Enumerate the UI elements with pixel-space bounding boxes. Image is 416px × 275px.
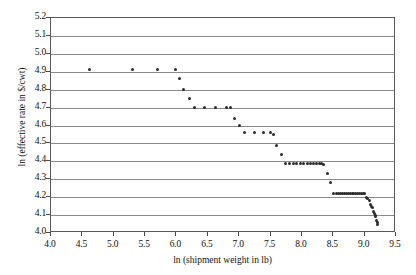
data-point xyxy=(363,192,366,195)
y-tick-mark xyxy=(46,160,50,161)
gridline xyxy=(51,143,394,144)
data-point xyxy=(233,117,236,120)
data-point xyxy=(225,106,228,109)
data-point xyxy=(253,131,256,134)
y-tick-label: 5.1 xyxy=(20,30,46,40)
data-point xyxy=(368,199,371,202)
y-tick-mark xyxy=(46,71,50,72)
x-tick-mark xyxy=(207,232,208,236)
y-tick-label: 5.0 xyxy=(20,48,46,58)
data-point xyxy=(188,97,191,100)
x-tick-label: 7.5 xyxy=(253,239,287,249)
data-point xyxy=(292,162,295,165)
x-tick-label: 9.5 xyxy=(378,239,412,249)
x-tick-label: 7.0 xyxy=(221,239,255,249)
y-tick-label: 4.1 xyxy=(20,209,46,219)
x-tick-mark xyxy=(81,232,82,236)
y-tick-mark xyxy=(46,196,50,197)
data-point xyxy=(272,133,275,136)
data-point xyxy=(178,77,181,80)
data-point xyxy=(214,106,217,109)
y-tick-label: 4.4 xyxy=(20,155,46,165)
gridline xyxy=(51,215,394,216)
x-tick-label: 6.5 xyxy=(190,239,224,249)
y-tick-label: 5.2 xyxy=(20,12,46,22)
plot-area xyxy=(50,17,395,232)
y-tick-mark xyxy=(46,107,50,108)
data-point xyxy=(374,215,377,218)
y-axis-ticks: 4.04.14.24.34.44.54.64.74.84.95.05.15.2 xyxy=(16,0,46,275)
x-axis-label: ln (shipment weight in lb) xyxy=(50,255,395,265)
x-tick-label: 4.5 xyxy=(64,239,98,249)
y-tick-mark xyxy=(46,214,50,215)
data-point xyxy=(329,181,332,184)
y-tick-mark xyxy=(46,232,50,233)
y-tick-label: 4.3 xyxy=(20,173,46,183)
x-tick-label: 8.0 xyxy=(284,239,318,249)
y-tick-mark xyxy=(46,35,50,36)
y-tick-label: 4.5 xyxy=(20,137,46,147)
x-tick-mark xyxy=(332,232,333,236)
data-point xyxy=(288,162,291,165)
y-tick-label: 4.0 xyxy=(20,227,46,237)
gridline xyxy=(51,72,394,73)
y-tick-mark xyxy=(46,178,50,179)
data-point xyxy=(193,106,196,109)
gridline xyxy=(51,54,394,55)
data-point xyxy=(322,163,325,166)
gridline xyxy=(51,179,394,180)
gridline xyxy=(51,161,394,162)
y-tick-mark xyxy=(46,53,50,54)
data-point xyxy=(326,172,329,175)
x-tick-mark xyxy=(50,232,51,236)
gridline xyxy=(51,36,394,37)
x-tick-mark xyxy=(395,232,396,236)
data-point xyxy=(302,162,305,165)
x-tick-mark xyxy=(270,232,271,236)
chart-figure: ln (effective rate in $/cwt) 4.04.14.24.… xyxy=(0,0,416,275)
data-point xyxy=(275,144,278,147)
y-tick-mark xyxy=(46,89,50,90)
data-point xyxy=(376,223,379,226)
y-tick-label: 4.6 xyxy=(20,120,46,130)
data-point xyxy=(284,162,287,165)
x-tick-mark xyxy=(364,232,365,236)
y-tick-label: 4.9 xyxy=(20,66,46,76)
y-tick-label: 4.2 xyxy=(20,191,46,201)
x-tick-mark xyxy=(113,232,114,236)
x-tick-label: 9.0 xyxy=(347,239,381,249)
gridline xyxy=(51,197,394,198)
x-tick-label: 6.0 xyxy=(158,239,192,249)
x-tick-label: 4.0 xyxy=(33,239,67,249)
y-tick-mark xyxy=(46,125,50,126)
x-tick-label: 5.0 xyxy=(96,239,130,249)
y-tick-mark xyxy=(46,17,50,18)
gridline xyxy=(51,126,394,127)
x-tick-mark xyxy=(144,232,145,236)
gridline xyxy=(51,90,394,91)
x-tick-label: 5.5 xyxy=(127,239,161,249)
y-tick-label: 4.8 xyxy=(20,84,46,94)
y-tick-label: 4.7 xyxy=(20,102,46,112)
data-point xyxy=(280,153,283,156)
data-point xyxy=(203,106,206,109)
gridline xyxy=(51,108,394,109)
x-tick-mark xyxy=(175,232,176,236)
data-point xyxy=(229,106,232,109)
data-point xyxy=(371,206,374,209)
data-point xyxy=(182,88,185,91)
x-tick-mark xyxy=(238,232,239,236)
data-point xyxy=(238,124,241,127)
x-tick-mark xyxy=(301,232,302,236)
data-point xyxy=(262,131,265,134)
data-point xyxy=(243,131,246,134)
x-tick-label: 8.5 xyxy=(315,239,349,249)
y-tick-mark xyxy=(46,142,50,143)
